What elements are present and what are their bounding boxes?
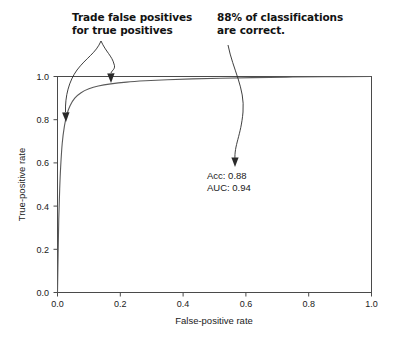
y-axis-title: True-positive rate <box>16 148 27 222</box>
x-tick-label: 0.8 <box>302 299 315 309</box>
x-tick-label: 0.6 <box>240 299 253 309</box>
y-tick-label: 0.4 <box>36 202 49 212</box>
leader-trade-off <box>62 41 115 122</box>
y-tick-label: 1.0 <box>36 72 49 82</box>
y-tick-label: 0.0 <box>36 288 49 298</box>
x-tick-label: 0.0 <box>51 299 64 309</box>
y-tick-label: 0.8 <box>36 115 49 125</box>
y-axis-tick-labels: 1.0 0.8 0.6 0.4 0.2 0.0 <box>36 72 49 298</box>
x-tick-label: 1.0 <box>365 299 378 309</box>
chart-canvas: 1.0 0.8 0.6 0.4 0.2 0.0 0.0 0.2 0.4 0.6 … <box>0 0 397 339</box>
y-tick-label: 0.6 <box>36 158 49 168</box>
x-tick-label: 0.2 <box>114 299 127 309</box>
arrow-head-icon <box>231 158 238 168</box>
y-axis-ticks <box>54 77 58 293</box>
arrow-head-icon <box>62 112 69 122</box>
stat-auc-label: AUC: 0.94 <box>207 182 251 193</box>
y-tick-label: 0.2 <box>36 245 49 255</box>
arrow-head-icon <box>107 73 114 83</box>
x-axis-tick-labels: 0.0 0.2 0.4 0.6 0.8 1.0 <box>51 299 378 309</box>
roc-chart-figure: Trade false positivesfor true positives … <box>0 0 397 339</box>
x-axis-ticks <box>58 293 372 297</box>
x-axis-title: False-positive rate <box>175 315 253 326</box>
stat-accuracy-label: Acc: 0.88 <box>207 170 247 181</box>
leader-accuracy <box>228 45 243 167</box>
x-tick-label: 0.4 <box>177 299 190 309</box>
